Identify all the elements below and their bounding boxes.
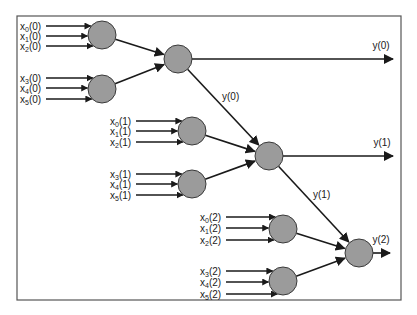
stage-output-label: y(0) — [372, 40, 389, 51]
hidden-node — [178, 170, 206, 198]
cascaded-network-diagram: x0(0)x1(0)x2(0)x3(0)x4(0)x5(0)y(0)y(0)x0… — [0, 0, 417, 315]
input-label: x2(1) — [110, 137, 131, 149]
hidden-node — [178, 117, 206, 145]
output-node — [255, 142, 283, 170]
input-label: x5(0) — [20, 94, 41, 106]
hidden-node — [269, 267, 297, 295]
stage-output-label: y(1) — [373, 137, 390, 148]
input-label: x5(2) — [200, 289, 221, 301]
stage-output-label: y(2) — [372, 234, 389, 245]
input-label: x1(2) — [200, 223, 221, 235]
output-node — [345, 239, 373, 267]
forward-label: y(1) — [313, 189, 330, 200]
input-label: x4(2) — [200, 277, 221, 289]
input-label: x2(0) — [20, 41, 41, 53]
input-label: x5(1) — [110, 190, 131, 202]
forward-label: y(0) — [222, 91, 239, 102]
input-label: x2(2) — [200, 235, 221, 247]
hidden-node — [88, 75, 116, 103]
hidden-node — [269, 215, 297, 243]
output-node — [164, 45, 192, 73]
hidden-node — [88, 21, 116, 49]
